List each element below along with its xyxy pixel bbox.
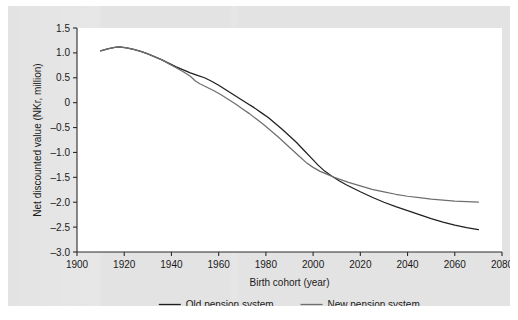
x-tick-label: 2080 [491, 259, 510, 270]
y-axis-title: Net discounted value (NKr, million) [32, 63, 43, 216]
y-tick-label: 0 [64, 97, 70, 108]
x-tick-label: 1900 [66, 259, 89, 270]
x-tick-label: 1960 [208, 259, 231, 270]
y-tick-label: –2.5 [51, 222, 71, 233]
y-tick-label: –3.0 [51, 247, 71, 258]
x-tick-label: 1940 [160, 259, 183, 270]
y-tick-label: 1.0 [56, 47, 70, 58]
x-tick-label: 1920 [113, 259, 136, 270]
x-tick-label: 2000 [302, 259, 325, 270]
series-line-new-pension-system [101, 47, 479, 202]
x-tick-label: 2060 [444, 259, 467, 270]
legend-label-new-pension-system: New pension system [328, 299, 420, 306]
y-tick-label: –0.5 [51, 122, 71, 133]
x-tick-label: 2020 [349, 259, 372, 270]
x-tick-label: 2040 [396, 259, 419, 270]
y-tick-label: –2.0 [51, 197, 71, 208]
line-chart: 1.51.00.50–0.5–1.0–1.5–2.0–2.5–3.0190019… [8, 6, 510, 306]
x-tick-label: 1980 [255, 259, 278, 270]
figure-container: 1.51.00.50–0.5–1.0–1.5–2.0–2.5–3.0190019… [8, 6, 510, 306]
y-tick-label: –1.5 [51, 172, 71, 183]
y-tick-label: 0.5 [56, 72, 70, 83]
y-tick-label: –1.0 [51, 147, 71, 158]
legend-label-old-pension-system: Old pension system [186, 299, 274, 306]
y-tick-label: 1.5 [56, 23, 70, 34]
x-axis-title: Birth cohort (year) [249, 277, 329, 288]
series-line-old-pension-system [101, 47, 479, 230]
